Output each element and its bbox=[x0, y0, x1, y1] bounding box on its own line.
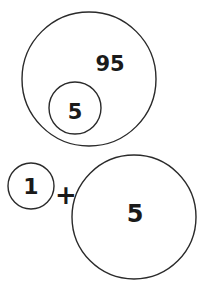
large-circle-label: 5 bbox=[127, 200, 144, 228]
outer-circle bbox=[22, 12, 156, 146]
bottom-group: 1 + 5 bbox=[8, 155, 196, 279]
small-circle-label: 1 bbox=[23, 174, 38, 199]
outer-circle-label: 95 bbox=[95, 52, 124, 76]
top-group: 95 5 bbox=[22, 12, 156, 146]
diagram-canvas: 95 5 1 + 5 bbox=[0, 0, 202, 290]
inner-circle-label: 5 bbox=[68, 100, 83, 124]
